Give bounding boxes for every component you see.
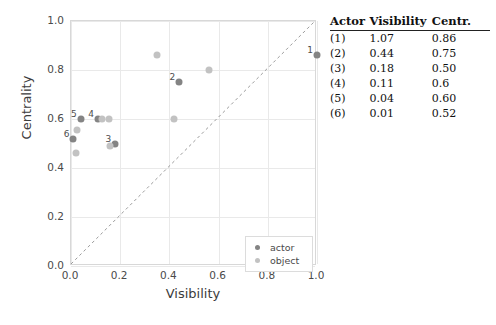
y-axis-label: Centrality bbox=[19, 38, 34, 178]
data-point-actor bbox=[70, 135, 77, 142]
actor-data-table: Actor Visibility Centr. (1)1.070.86(2)0.… bbox=[330, 14, 490, 121]
y-tick-label: 0.2 bbox=[47, 210, 64, 222]
table-cell-visibility: 0.44 bbox=[369, 46, 431, 61]
x-tick-label: 0.4 bbox=[160, 269, 177, 281]
table-cell-centrality: 0.52 bbox=[432, 106, 490, 121]
legend-swatch-icon bbox=[255, 245, 260, 250]
table-cell-visibility: 0.18 bbox=[369, 61, 431, 76]
table-row: (2)0.440.75 bbox=[330, 46, 490, 61]
table-cell-visibility: 1.07 bbox=[369, 31, 431, 47]
data-point-actor bbox=[176, 79, 183, 86]
y-tick-label: 0.0 bbox=[47, 259, 64, 271]
data-point-label: 4 bbox=[88, 109, 94, 119]
x-tick-label: 0.2 bbox=[111, 269, 128, 281]
data-point-object bbox=[205, 67, 212, 74]
data-point-object bbox=[154, 52, 161, 59]
table-cell-actor: (1) bbox=[330, 31, 369, 47]
y-tick-label: 1.0 bbox=[47, 14, 64, 26]
actor-data-table-panel: Actor Visibility Centr. (1)1.070.86(2)0.… bbox=[330, 14, 490, 121]
y-tick-label: 0.6 bbox=[47, 112, 64, 124]
data-point-object bbox=[106, 116, 113, 123]
table-cell-actor: (4) bbox=[330, 76, 369, 91]
table-header-row: Actor Visibility Centr. bbox=[330, 14, 490, 31]
data-point-object bbox=[72, 150, 79, 157]
table-cell-visibility: 0.04 bbox=[369, 91, 431, 106]
plot-area: 123456 bbox=[70, 20, 316, 265]
table-cell-actor: (2) bbox=[330, 46, 369, 61]
data-point-actor bbox=[77, 116, 84, 123]
table-row: (1)1.070.86 bbox=[330, 31, 490, 47]
table-cell-visibility: 0.11 bbox=[369, 76, 431, 91]
data-point-object bbox=[98, 116, 105, 123]
x-axis-label: Visibility bbox=[70, 286, 316, 301]
table-cell-centrality: 0.75 bbox=[432, 46, 490, 61]
chart-legend: actorobject bbox=[245, 236, 313, 272]
table-cell-actor: (3) bbox=[330, 61, 369, 76]
table-cell-actor: (6) bbox=[330, 106, 369, 121]
data-point-label: 2 bbox=[170, 72, 176, 82]
y-tick-label: 0.8 bbox=[47, 63, 64, 75]
legend-label: object bbox=[270, 255, 299, 266]
table-cell-centrality: 0.60 bbox=[432, 91, 490, 106]
table-header-centrality: Centr. bbox=[432, 14, 490, 31]
x-tick-label: 0.6 bbox=[209, 269, 226, 281]
data-point-label: 5 bbox=[71, 109, 77, 119]
table-row: (5)0.040.60 bbox=[330, 91, 490, 106]
legend-item-object[interactable]: object bbox=[252, 254, 306, 267]
legend-swatch-icon bbox=[255, 258, 260, 263]
data-point-object bbox=[74, 127, 81, 134]
table-header-actor: Actor bbox=[330, 14, 369, 31]
table-row: (4)0.110.6 bbox=[330, 76, 490, 91]
table-cell-visibility: 0.01 bbox=[369, 106, 431, 121]
legend-item-actor[interactable]: actor bbox=[252, 241, 306, 254]
data-point-label: 1 bbox=[307, 45, 313, 55]
scatter-figure: 123456 0.00.20.40.60.81.0 0.00.20.40.60.… bbox=[0, 0, 496, 325]
data-point-object bbox=[171, 116, 178, 123]
table-header-visibility: Visibility bbox=[369, 14, 431, 31]
table-body: (1)1.070.86(2)0.440.75(3)0.180.50(4)0.11… bbox=[330, 31, 490, 122]
y-tick-label: 0.4 bbox=[47, 161, 64, 173]
data-point-actor bbox=[314, 52, 321, 59]
data-point-object bbox=[107, 142, 114, 149]
table-row: (6)0.010.52 bbox=[330, 106, 490, 121]
table-cell-actor: (5) bbox=[330, 91, 369, 106]
table-cell-centrality: 0.86 bbox=[432, 31, 490, 47]
table-cell-centrality: 0.50 bbox=[432, 61, 490, 76]
table-row: (3)0.180.50 bbox=[330, 61, 490, 76]
legend-label: actor bbox=[270, 242, 295, 253]
x-tick-label: 0.0 bbox=[62, 269, 79, 281]
table-cell-centrality: 0.6 bbox=[432, 76, 490, 91]
data-point-label: 6 bbox=[64, 129, 70, 139]
table-header: Actor Visibility Centr. bbox=[330, 14, 490, 31]
